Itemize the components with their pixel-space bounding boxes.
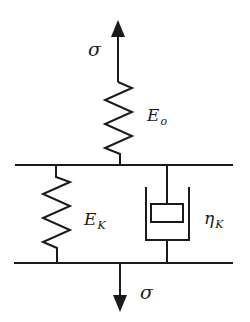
bottom-force-arrow xyxy=(113,263,127,312)
e-k-label: EK xyxy=(84,211,106,228)
e-o-label: Eo xyxy=(147,107,167,124)
sigma-bottom-label: σ xyxy=(140,283,153,302)
e-o-sub: o xyxy=(160,115,167,128)
dashpot-etak xyxy=(146,165,189,263)
rheological-diagram xyxy=(0,0,250,322)
e-o-base: E xyxy=(147,105,159,125)
sigma-top-label: σ xyxy=(88,40,101,59)
top-force-arrow xyxy=(111,20,125,82)
e-k-base: E xyxy=(84,209,96,229)
e-k-sub: K xyxy=(97,219,105,232)
spring-ek xyxy=(43,165,70,263)
eta-k-sub: K xyxy=(215,218,223,231)
spring-eo xyxy=(105,82,132,165)
eta-k-base: η xyxy=(204,208,214,228)
eta-k-label: ηK xyxy=(204,210,223,227)
